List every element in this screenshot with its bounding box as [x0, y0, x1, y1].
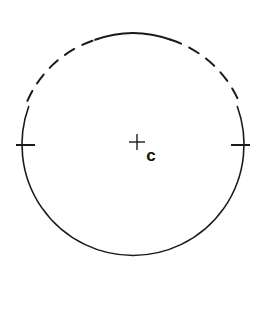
center-label: c	[146, 146, 155, 165]
circle-diagram: c	[0, 0, 266, 321]
figure-canvas: c	[0, 0, 266, 321]
figure-background	[0, 0, 266, 321]
